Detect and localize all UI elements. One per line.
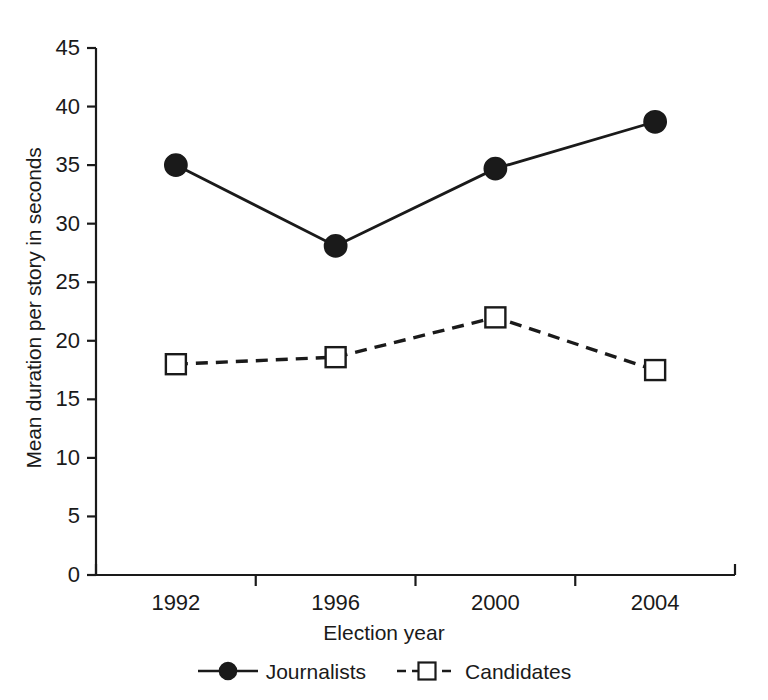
legend-entry-candidates: Candidates: [396, 660, 571, 682]
x-axis-title: Election year: [0, 621, 768, 645]
y-tick-label: 30: [26, 213, 80, 235]
chart-legend: Journalists Candidates: [0, 660, 768, 682]
data-point-marker-open-square: [326, 347, 346, 367]
data-point-marker-open-square: [645, 360, 665, 380]
y-tick-label: 40: [26, 96, 80, 118]
y-tick-label: 25: [26, 271, 80, 293]
x-tick-label: 2004: [595, 591, 715, 615]
data-point-marker-open-square: [485, 307, 505, 327]
y-tick-label: 15: [26, 388, 80, 410]
series-journalists: [165, 111, 666, 257]
data-point-marker-filled-circle: [325, 235, 347, 257]
y-tick-label: 0: [26, 564, 80, 586]
data-point-marker-filled-circle: [484, 158, 506, 180]
y-tick-label: 20: [26, 330, 80, 352]
data-point-marker-filled-circle: [644, 111, 666, 133]
legend-label-candidates: Candidates: [465, 661, 571, 682]
series-layer: [165, 111, 666, 380]
legend-marker-open-square-icon: [396, 660, 458, 682]
x-tick-label: 1996: [276, 591, 396, 615]
data-point-marker-open-square: [166, 354, 186, 374]
legend-marker-filled-circle-icon: [197, 660, 259, 682]
data-point-marker-filled-circle: [165, 154, 187, 176]
y-tick-label: 10: [26, 447, 80, 469]
x-tick-label: 1992: [116, 591, 236, 615]
y-axis-ticks: [87, 48, 96, 575]
series-candidates: [166, 307, 665, 380]
x-tick-label: 2000: [435, 591, 555, 615]
y-tick-label: 45: [26, 37, 80, 59]
y-tick-label: 35: [26, 154, 80, 176]
line-chart: Mean duration per story in seconds 05101…: [0, 0, 768, 700]
series-line: [176, 317, 655, 370]
y-tick-label: 5: [26, 505, 80, 527]
legend-entry-journalists: Journalists: [197, 660, 366, 682]
legend-label-journalists: Journalists: [266, 661, 366, 682]
series-line: [176, 122, 655, 246]
